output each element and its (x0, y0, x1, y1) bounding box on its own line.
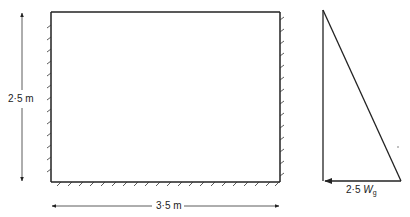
stray-dot (397, 146, 398, 147)
pressure-base-label: 2·5 Wg (346, 184, 377, 199)
width-label: 3·5 m (154, 200, 184, 212)
height-label: 2·5 m (8, 93, 34, 105)
pressure-base-value: 2·5 (346, 184, 360, 195)
pressure-triangle (323, 10, 401, 181)
pressure-base-subscript: g (373, 189, 377, 196)
wall-plate (51, 12, 280, 182)
pressure-base-symbol: W (363, 184, 372, 195)
